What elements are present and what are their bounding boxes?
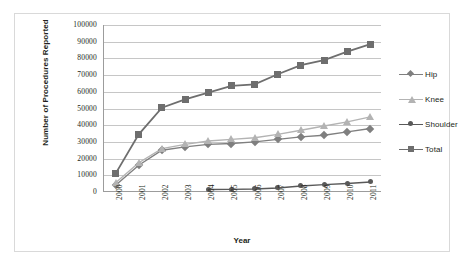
x-axis-tick: 2010 [346,188,355,200]
data-point-knee-2009 [320,122,328,129]
data-point-knee-2008 [297,126,305,133]
x-axis-tick: 2003 [184,188,193,200]
legend-label: Hip [423,70,437,79]
data-point-total-2003 [182,96,189,103]
x-axis-tick: 2002 [161,188,170,200]
data-point-total-2004 [205,89,212,96]
y-axis-tick: 100000 [73,21,97,29]
x-axis-tick: 2005 [230,188,239,200]
y-axis-tick: 40000 [77,121,97,129]
y-axis-tick: 30000 [77,138,97,146]
x-axis-tick: 2007 [277,188,286,200]
x-axis-tick: 2000 [115,188,124,200]
y-axis-tick: 60000 [77,88,97,96]
data-point-knee-2005 [227,135,235,142]
legend-item-total[interactable]: Total [399,137,464,162]
x-axis-tick: 2008 [300,188,309,200]
legend-swatch-shoulder-icon [399,120,423,130]
data-point-total-2000 [112,170,119,177]
data-point-knee-2002 [158,145,166,152]
data-point-total-2006 [251,81,258,88]
series-line-hip [116,129,371,186]
legend-swatch-knee-icon [399,95,423,105]
series-lines [104,25,382,192]
data-point-knee-2004 [204,137,212,144]
y-axis-tick: 80000 [77,54,97,62]
legend-item-knee[interactable]: Knee [399,87,464,112]
x-axis-tick-labels: 2000200120022003200420052006200720082009… [103,194,381,234]
series-line-knee [116,117,371,183]
data-point-total-2008 [297,62,304,69]
y-axis-tick: 0 [93,188,97,196]
data-point-knee-2010 [343,118,351,125]
x-axis-tick: 2011 [369,188,378,200]
data-point-knee-2011 [366,113,374,120]
legend-label: Shoulder [423,120,458,129]
data-point-total-2001 [135,131,142,138]
x-axis-tick: 2004 [207,188,216,200]
x-axis-tick: 2009 [323,188,332,200]
data-point-total-2005 [228,82,235,89]
x-axis-tick: 2001 [138,188,147,200]
legend-label: Total [423,145,442,154]
legend-label: Knee [423,95,444,104]
data-point-knee-2001 [135,159,143,166]
y-axis-tick: 20000 [77,155,97,163]
y-axis-tick: 90000 [77,38,97,46]
y-axis-tick: 50000 [77,105,97,113]
x-axis-title: Year [103,236,381,245]
data-point-total-2007 [274,71,281,78]
data-point-knee-2003 [181,140,189,147]
y-axis-tick: 70000 [77,71,97,79]
plot-area [103,25,381,192]
data-point-total-2011 [367,41,374,48]
legend-item-shoulder[interactable]: Shoulder [399,112,464,137]
chart-container: Number of Procedures Reported 1000009000… [14,13,450,252]
x-axis-tick: 2006 [254,188,263,200]
legend-swatch-hip-icon [399,70,423,80]
data-point-total-2009 [321,57,328,64]
legend-swatch-total-icon [399,145,423,155]
data-point-total-2002 [158,104,165,111]
legend-item-hip[interactable]: Hip [399,62,464,87]
data-point-total-2010 [344,48,351,55]
chart-legend: HipKneeShoulderTotal [399,62,464,162]
y-axis-tick: 10000 [77,171,97,179]
data-point-knee-2007 [274,130,282,137]
y-axis-tick-labels: 1000009000080000700006000050000400003000… [47,25,101,192]
data-point-knee-2006 [251,134,259,141]
